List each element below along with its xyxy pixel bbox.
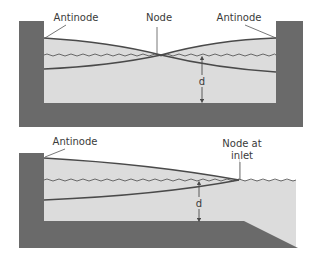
antinode-left-label: Antinode: [54, 12, 99, 23]
open-antinode-label: Antinode: [53, 136, 98, 147]
depth-label: d: [199, 76, 205, 87]
open-basin-diagram: d Antinode Node at inlet: [19, 136, 298, 248]
node-at-inlet-label-line2: inlet: [231, 150, 253, 161]
open-depth-label: d: [196, 198, 202, 209]
antinode-right-label: Antinode: [217, 12, 262, 23]
node-at-inlet-label-line1: Node at: [222, 138, 261, 149]
node-label: Node: [146, 12, 172, 23]
closed-basin-diagram: d Antinode Node Antinode: [19, 12, 303, 127]
seiche-diagram: d Antinode Node Antinode d Antinode Node…: [0, 0, 322, 262]
